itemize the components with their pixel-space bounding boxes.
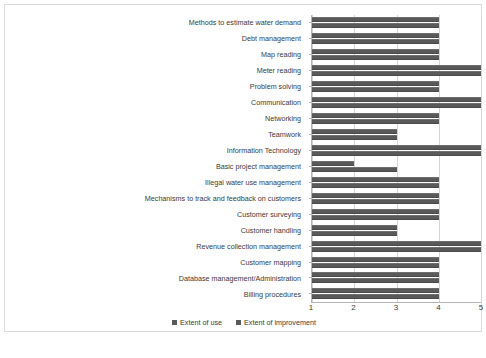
- axis-tick: [309, 293, 312, 294]
- axis-tick: [309, 86, 312, 87]
- bar-row: [312, 79, 481, 95]
- bar-row: [312, 15, 481, 31]
- value-tick-label: 2: [351, 304, 355, 312]
- chart-frame: Methods to estimate water demandDebt man…: [4, 4, 482, 332]
- category-label: Illegal water use management: [5, 175, 307, 191]
- bar-extent-of-use: [312, 33, 439, 38]
- category-label: Billing procedures: [5, 287, 307, 303]
- legend-label: Extent of use: [180, 319, 222, 326]
- bar-extent-of-improvement: [312, 87, 439, 92]
- value-tick-label: 5: [479, 304, 483, 312]
- bar-extent-of-use: [312, 17, 439, 22]
- bar-extent-of-use: [312, 177, 439, 182]
- bar-extent-of-use: [312, 272, 439, 277]
- axis-tick: [309, 38, 312, 39]
- bar-extent-of-use: [312, 49, 439, 54]
- bar-extent-of-use: [312, 288, 439, 293]
- chart-page: Methods to estimate water demandDebt man…: [0, 0, 486, 358]
- bar-extent-of-improvement: [312, 278, 439, 283]
- category-label: Customer mapping: [5, 255, 307, 271]
- bar-extent-of-improvement: [312, 39, 439, 44]
- axis-tick: [309, 22, 312, 23]
- axis-tick: [309, 54, 312, 55]
- bar-row: [312, 158, 481, 174]
- bar-extent-of-improvement: [312, 103, 481, 108]
- category-label: Problem solving: [5, 79, 307, 95]
- category-label: Networking: [5, 111, 307, 127]
- category-label: Methods to estimate water demand: [5, 15, 307, 31]
- value-tick-label: 1: [309, 304, 313, 312]
- bar-extent-of-improvement: [312, 119, 439, 124]
- axis-tick: [309, 70, 312, 71]
- axis-tick: [309, 198, 312, 199]
- bar-extent-of-use: [312, 81, 439, 86]
- axis-tick: [309, 230, 312, 231]
- plot-area: [311, 15, 481, 303]
- category-label: Revenue collection management: [5, 239, 307, 255]
- bar-row: [312, 286, 481, 302]
- bar-row: [312, 206, 481, 222]
- category-label: Debt management: [5, 31, 307, 47]
- bar-extent-of-use: [312, 225, 397, 230]
- axis-tick: [309, 277, 312, 278]
- axis-tick: [309, 150, 312, 151]
- axis-tick: [309, 182, 312, 183]
- category-label: Mechanisms to track and feedback on cust…: [5, 191, 307, 207]
- legend-item[interactable]: Extent of improvement: [236, 319, 316, 326]
- bar-extent-of-use: [312, 65, 481, 70]
- value-tick-label: 3: [394, 304, 398, 312]
- value-tick-label: 4: [436, 304, 440, 312]
- legend-swatch-icon: [172, 320, 177, 325]
- chart-legend: Extent of useExtent of improvement: [5, 319, 483, 326]
- bar-row: [312, 31, 481, 47]
- category-label: Database management/Administration: [5, 271, 307, 287]
- bar-row: [312, 127, 481, 143]
- category-label: Information Technology: [5, 143, 307, 159]
- bar-extent-of-use: [312, 241, 481, 246]
- bar-extent-of-improvement: [312, 263, 439, 268]
- category-label: Basic project management: [5, 159, 307, 175]
- bar-row: [312, 270, 481, 286]
- legend-swatch-icon: [236, 320, 241, 325]
- bar-extent-of-use: [312, 161, 354, 166]
- bar-row: [312, 47, 481, 63]
- bar-extent-of-use: [312, 193, 439, 198]
- bar-extent-of-improvement: [312, 23, 439, 28]
- bar-extent-of-improvement: [312, 167, 397, 172]
- category-label: Communication: [5, 95, 307, 111]
- bar-row: [312, 95, 481, 111]
- category-label: Meter reading: [5, 63, 307, 79]
- axis-tick: [309, 262, 312, 263]
- axis-tick: [309, 214, 312, 215]
- bar-rows: [312, 15, 481, 302]
- value-axis-labels: 12345: [311, 304, 481, 318]
- legend-item[interactable]: Extent of use: [172, 319, 222, 326]
- bar-row: [312, 238, 481, 254]
- bar-row: [312, 174, 481, 190]
- axis-tick: [309, 102, 312, 103]
- bar-extent-of-improvement: [312, 294, 439, 299]
- bar-extent-of-use: [312, 209, 439, 214]
- chart-plot-wrapper: Methods to estimate water demandDebt man…: [5, 5, 483, 333]
- bar-extent-of-improvement: [312, 55, 439, 60]
- bar-extent-of-improvement: [312, 199, 439, 204]
- axis-tick: [309, 166, 312, 167]
- bar-extent-of-improvement: [312, 247, 481, 252]
- bar-extent-of-use: [312, 97, 481, 102]
- bar-extent-of-improvement: [312, 135, 397, 140]
- bar-extent-of-improvement: [312, 71, 481, 76]
- category-label: Map reading: [5, 47, 307, 63]
- bar-row: [312, 111, 481, 127]
- bar-row: [312, 190, 481, 206]
- bar-row: [312, 63, 481, 79]
- category-label: Customer handling: [5, 223, 307, 239]
- bar-extent-of-improvement: [312, 215, 439, 220]
- axis-tick: [309, 134, 312, 135]
- bar-row: [312, 143, 481, 159]
- bar-extent-of-improvement: [312, 183, 439, 188]
- bar-extent-of-improvement: [312, 231, 397, 236]
- bar-extent-of-improvement: [312, 151, 481, 156]
- legend-label: Extent of improvement: [244, 319, 316, 326]
- bar-extent-of-use: [312, 257, 439, 262]
- gridline: [481, 15, 482, 302]
